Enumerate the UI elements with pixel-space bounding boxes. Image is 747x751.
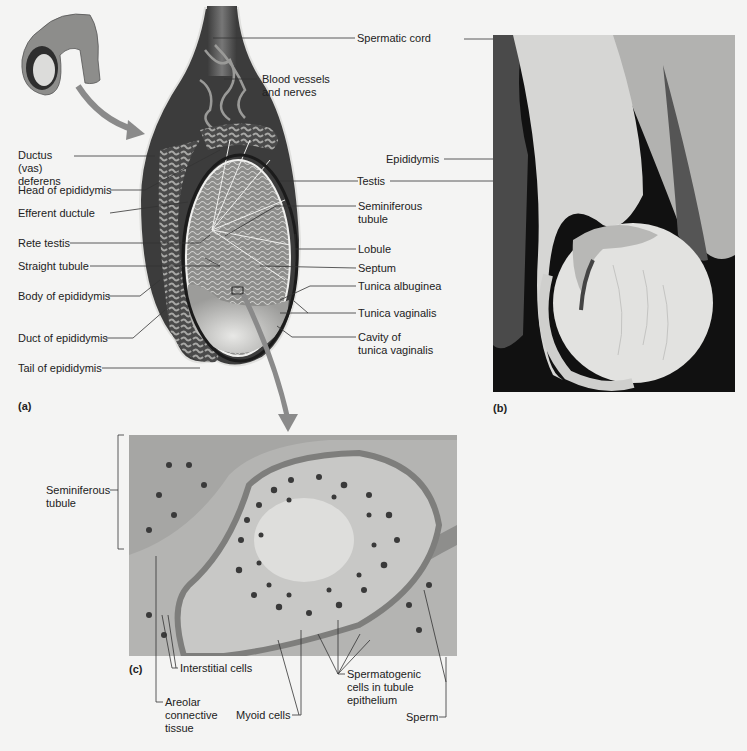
label-cavity-of-tunica-vaginalis: Cavity of tunica vaginalis [358, 331, 448, 357]
label-seminiferous-tubule: Seminiferous tubule [358, 200, 438, 226]
label-c-seminiferous-tubule: Seminiferous tubule [46, 484, 110, 510]
label-line: Areolar [165, 696, 235, 709]
label-blood-vessels-and-nerves: Blood vessels and nerves [262, 73, 352, 99]
label-ductus-deferens: Ductus (vas) deferens [18, 149, 78, 188]
label-line: Spermatogenic [347, 668, 437, 681]
label-areolar-connective-tissue: Areolar connective tissue [165, 696, 235, 735]
label-spermatogenic-cells: Spermatogenic cells in tubule epithelium [347, 668, 437, 707]
label-line: tubule [358, 213, 438, 226]
label-line: Cavity of [358, 331, 448, 344]
label-line: tunica vaginalis [358, 344, 448, 357]
panel-tag-b: (b) [493, 402, 507, 414]
label-line: Blood vessels [262, 73, 352, 86]
label-lobule: Lobule [358, 243, 391, 256]
label-tunica-vaginalis: Tunica vaginalis [358, 307, 436, 320]
label-septum: Septum [358, 262, 396, 275]
label-line: Ductus (vas) [18, 149, 78, 175]
label-line: tubule [46, 497, 110, 510]
label-line: and nerves [262, 86, 352, 99]
label-rete-testis: Rete testis [18, 237, 70, 250]
label-straight-tubule: Straight tubule [18, 260, 89, 273]
label-tunica-albuginea: Tunica albuginea [358, 280, 441, 293]
label-efferent-ductule: Efferent ductule [18, 207, 95, 220]
label-testis: Testis [357, 175, 385, 188]
label-head-of-epididymis: Head of epididymis [18, 184, 112, 197]
label-duct-of-epididymis: Duct of epididymis [18, 332, 108, 345]
leader-lines-c [0, 0, 747, 751]
label-line: tissue [165, 722, 235, 735]
label-line: connective [165, 709, 235, 722]
label-epididymis: Epididymis [386, 153, 439, 166]
label-line: Seminiferous [46, 484, 110, 497]
label-tail-of-epididymis: Tail of epididymis [18, 362, 102, 375]
label-sperm: Sperm [406, 711, 438, 724]
label-interstitial-cells: Interstitial cells [180, 662, 252, 675]
label-line: cells in tubule [347, 681, 437, 694]
panel-tag-a: (a) [18, 400, 31, 412]
label-line: Seminiferous [358, 200, 438, 213]
label-body-of-epididymis: Body of epididymis [18, 290, 110, 303]
label-myoid-cells: Myoid cells [236, 709, 290, 722]
label-spermatic-cord: Spermatic cord [357, 32, 431, 45]
panel-tag-c: (c) [129, 663, 142, 675]
label-line: epithelium [347, 694, 437, 707]
